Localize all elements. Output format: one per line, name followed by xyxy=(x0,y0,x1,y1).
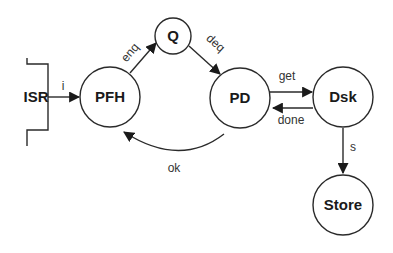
edge-pfh-q: enq xyxy=(118,40,156,73)
store-label: Store xyxy=(324,196,362,213)
edge-isr-pfh: i xyxy=(48,79,79,97)
isr-node: ISR xyxy=(23,58,48,146)
dsk-node: Dsk xyxy=(313,67,373,127)
arrow-icon xyxy=(124,132,224,151)
edge-dsk-store: s xyxy=(343,128,356,173)
edge-label-done: done xyxy=(278,113,305,127)
edge-label-ok: ok xyxy=(168,161,182,175)
pfh-node: PFH xyxy=(80,67,140,127)
edge-dsk-pd: done xyxy=(273,108,313,127)
q-label: Q xyxy=(167,27,179,44)
pd-label: PD xyxy=(230,89,251,106)
edge-pd-pfh: ok xyxy=(124,132,224,175)
edge-q-pd: deq xyxy=(189,31,228,74)
edge-label-get: get xyxy=(279,69,296,83)
store-node: Store xyxy=(313,175,373,235)
edge-label-enq: enq xyxy=(118,40,142,64)
edge-pd-dsk: get xyxy=(270,69,312,92)
isr-label: ISR xyxy=(23,88,48,105)
edge-label-s: s xyxy=(350,140,356,154)
q-node: Q xyxy=(155,18,191,54)
pfh-label: PFH xyxy=(95,88,125,105)
edge-label-deq: deq xyxy=(204,31,228,55)
diagram-canvas: ISR i enq deq get done ok s PFH xyxy=(0,0,393,253)
dsk-label: Dsk xyxy=(329,88,357,105)
edge-label-i: i xyxy=(62,79,65,93)
pd-node: PD xyxy=(210,68,270,128)
